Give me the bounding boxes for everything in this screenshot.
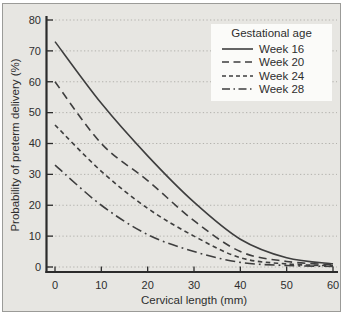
y-tick-label: 30	[29, 168, 41, 180]
legend-item-week-24: Week 24	[211, 69, 332, 83]
line-sample-long-dash-icon	[222, 58, 253, 66]
x-tick-label: 10	[95, 279, 107, 291]
x-tick-label: 50	[281, 279, 293, 291]
legend-label: Week 20	[259, 56, 304, 68]
curve-week-28	[55, 165, 333, 266]
y-tick-label: 10	[29, 230, 41, 242]
legend-label: Week 24	[259, 70, 304, 82]
y-tick-label: 0	[35, 261, 41, 273]
x-tick-label: 40	[234, 279, 246, 291]
x-tick-label: 20	[142, 279, 154, 291]
y-tick-label: 80	[29, 14, 41, 26]
y-tick-label: 70	[29, 45, 41, 57]
y-tick-label: 20	[29, 199, 41, 211]
legend-label: Week 28	[259, 83, 304, 95]
curve-week-24	[55, 125, 333, 266]
y-tick-label: 50	[29, 106, 41, 118]
y-tick-label: 40	[29, 137, 41, 149]
legend-item-week-16: Week 16	[211, 42, 332, 56]
legend: Gestational age Week 16 Week 20 Week 24 …	[211, 24, 332, 101]
y-tick-label: 60	[29, 76, 41, 88]
x-tick-label: 30	[188, 279, 200, 291]
figure-preterm-delivery-chart: 010203040506070800102030405060 Probabili…	[0, 0, 347, 320]
line-sample-dash-dot-icon	[222, 85, 253, 93]
x-tick-label: 0	[52, 279, 58, 291]
x-axis-title: Cervical length (mm)	[141, 294, 247, 306]
line-sample-solid-icon	[222, 45, 253, 53]
legend-item-week-28: Week 28	[211, 83, 332, 97]
curve-week-20	[55, 82, 333, 265]
x-tick-label: 60	[327, 279, 339, 291]
y-axis-title: Probability of preterm delivery (%)	[9, 58, 21, 231]
legend-label: Week 16	[259, 43, 304, 55]
legend-title: Gestational age	[211, 27, 332, 39]
legend-item-week-20: Week 20	[211, 56, 332, 70]
line-sample-short-dash-icon	[222, 72, 253, 80]
